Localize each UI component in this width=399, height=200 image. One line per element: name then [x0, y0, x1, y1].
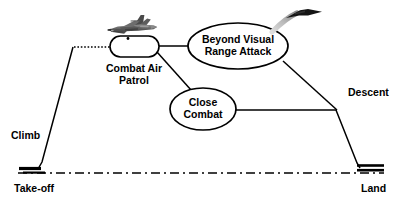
node-combat-air-patrol[interactable]: [110, 36, 159, 57]
label-combat-air-patrol-line1: Combat Air: [106, 62, 162, 74]
mission-profile-diagram: Combat Air Patrol Beyond Visual Range At…: [0, 0, 399, 200]
takeoff-runway: [19, 169, 45, 173]
missile-launch-arrow-icon: [272, 9, 322, 32]
label-bvr-line2: Range Attack: [205, 45, 272, 57]
connector-bvr-to-descent: [283, 61, 337, 110]
label-combat-air-patrol-line2: Patrol: [119, 74, 149, 86]
label-climb: Climb: [11, 129, 40, 141]
label-takeoff: Take-off: [14, 182, 55, 194]
label-close-combat-line2: Combat: [183, 108, 223, 120]
label-bvr-line1: Beyond Visual: [202, 33, 274, 45]
label-land: Land: [361, 182, 386, 194]
label-descent: Descent: [348, 86, 389, 98]
fighter-jet-icon: [108, 15, 158, 34]
land-runway: [357, 166, 384, 171]
cap-attach-dot: [127, 37, 130, 40]
mission-profile-canvas: Combat Air Patrol Beyond Visual Range At…: [0, 0, 399, 200]
label-close-combat-line1: Close: [189, 96, 218, 108]
descent-leg-line: [336, 110, 360, 168]
climb-leg-line: [38, 47, 73, 169]
